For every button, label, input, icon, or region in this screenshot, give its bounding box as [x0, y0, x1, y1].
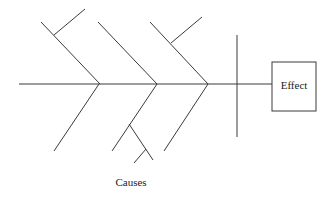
upper-branch-3	[150, 22, 208, 84]
lower-sub-sub-branch-2	[134, 149, 146, 163]
lower-branch-3	[164, 84, 208, 151]
lower-branch-2	[112, 84, 157, 151]
upper-sub-branch-1	[54, 9, 85, 35]
upper-branch-2	[98, 22, 157, 84]
causes-label: Causes	[115, 176, 146, 188]
fishbone-diagram: Effect Causes	[0, 0, 334, 197]
upper-branch-1	[41, 22, 100, 84]
upper-sub-branch-3	[171, 17, 202, 43]
effect-label: Effect	[281, 79, 308, 91]
lower-branch-1	[54, 84, 99, 151]
